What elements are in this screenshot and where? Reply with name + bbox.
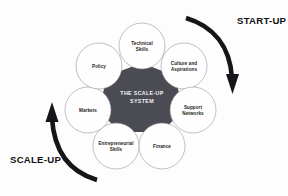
node-label-line1: Policy xyxy=(92,64,106,69)
diagram-canvas: THE SCALE-UP SYSTEM Technical Skills Cul… xyxy=(0,0,288,196)
scale-up-arrowhead-icon xyxy=(46,102,59,122)
hub-label-line1: THE SCALE-UP xyxy=(120,90,163,96)
start-up-arrowhead-icon xyxy=(226,74,239,94)
node-policy[interactable]: Policy xyxy=(76,43,122,89)
node-circle[interactable] xyxy=(161,43,207,89)
hub-label-line2: SYSTEM xyxy=(130,98,154,104)
node-label-line2: Networks xyxy=(182,111,204,116)
node-label-line1: Technical xyxy=(131,41,153,46)
node-label-line1: Markets xyxy=(79,108,97,113)
node-label-line1: Culture and xyxy=(171,61,198,66)
start-up-label: START-UP xyxy=(237,15,287,26)
node-circle[interactable] xyxy=(170,87,216,133)
node-label-line1: Support xyxy=(184,105,203,110)
node-label-line2: Skills xyxy=(110,147,123,152)
node-label-line2: Aspirations xyxy=(171,67,198,72)
node-label-line1: Finance xyxy=(153,144,171,149)
node-technical-skills[interactable]: Technical Skills xyxy=(119,23,165,69)
node-finance[interactable]: Finance xyxy=(139,123,185,169)
node-culture-aspirations[interactable]: Culture and Aspirations xyxy=(161,43,207,89)
node-circle[interactable] xyxy=(119,23,165,69)
scale-up-label: SCALE-UP xyxy=(10,154,61,165)
scale-up-system-diagram: THE SCALE-UP SYSTEM Technical Skills Cul… xyxy=(0,0,288,196)
node-label-line1: Entrepreneurial xyxy=(98,141,133,146)
node-support-networks[interactable]: Support Networks xyxy=(170,87,216,133)
node-markets[interactable]: Markets xyxy=(65,87,111,133)
node-label-line2: Skills xyxy=(136,47,149,52)
